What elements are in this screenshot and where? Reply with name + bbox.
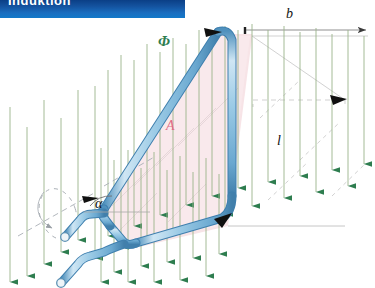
label-flux: Φ [158,33,170,50]
label-length: l [277,133,281,149]
induction-diagram [0,0,375,288]
perspective-outline [228,36,368,226]
terminal-lower [57,279,66,288]
label-width: b [286,6,293,22]
label-area: A [166,118,175,134]
dimension-l [258,110,292,142]
terminal-upper [61,233,70,242]
figure-canvas: Induktion [0,0,375,288]
label-angle: α [95,196,102,212]
